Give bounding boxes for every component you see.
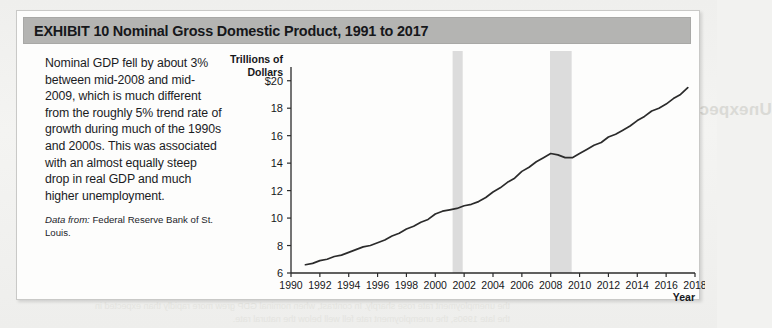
x-tick-label: 2018 [683, 279, 705, 291]
x-tick-label: 2002 [452, 279, 476, 291]
y-tick-label: 18 [271, 102, 283, 114]
y-tick-label: 8 [277, 240, 283, 252]
y-axis-label-line1: Trillions of [230, 53, 284, 65]
caption-column: Nominal GDP fell by about 3% between mid… [45, 55, 223, 240]
y-tick-label: 10 [271, 212, 283, 224]
exhibit-header-bar: EXHIBIT 10 Nominal Gross Domestic Produc… [23, 17, 691, 44]
gdp-line-series [305, 88, 687, 265]
caption-source: Data from: Federal Reserve Bank of St. L… [45, 214, 223, 239]
chart-svg: 681012141618$20 199019921994199619982000… [213, 51, 705, 301]
y-axis-label-line2: Dollars [247, 66, 283, 78]
exhibit-title: EXHIBIT 10 Nominal Gross Domestic Produc… [34, 22, 428, 40]
x-axis-label: Year [673, 291, 695, 301]
y-tick-label: 6 [277, 267, 283, 279]
x-tick-label: 2016 [654, 279, 678, 291]
caption-body-text: Nominal GDP fell by about 3% between mid… [45, 55, 223, 204]
x-tick-label: 1994 [337, 279, 361, 291]
recession-band [550, 51, 572, 273]
x-tick-label: 1992 [308, 279, 332, 291]
y-tick-label: 12 [271, 185, 283, 197]
x-tick-label: 2006 [510, 279, 534, 291]
x-tick-label: 2014 [626, 279, 650, 291]
x-axis-ticks: 1990199219941996199820002002200420062008… [279, 273, 705, 291]
x-tick-label: 1996 [366, 279, 390, 291]
x-tick-label: 2012 [597, 279, 621, 291]
source-label: Data from: [45, 214, 90, 225]
x-tick-label: 2008 [539, 279, 563, 291]
y-tick-label: 14 [271, 157, 283, 169]
x-tick-label: 2000 [424, 279, 448, 291]
x-tick-label: 1990 [279, 279, 303, 291]
x-tick-label: 1998 [395, 279, 419, 291]
recession-bands [453, 51, 572, 273]
x-tick-label: 2010 [568, 279, 592, 291]
gdp-chart: 681012141618$20 199019921994199619982000… [213, 51, 705, 301]
recession-band [453, 51, 463, 273]
bleed-through-bottom-text: the unemployment rate rose sharply. In c… [95, 300, 510, 326]
y-axis-ticks: 681012141618$20 [265, 75, 291, 279]
x-tick-label: 2004 [481, 279, 505, 291]
y-tick-label: 16 [271, 130, 283, 142]
axis-lines [291, 67, 695, 273]
exhibit-box: EXHIBIT 10 Nominal Gross Domestic Produc… [16, 10, 700, 300]
